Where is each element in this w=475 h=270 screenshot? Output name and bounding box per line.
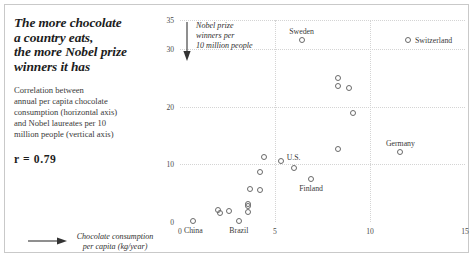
- data-point: [291, 165, 297, 171]
- data-point: [346, 85, 352, 91]
- page-title: The more chocolate a country eats, the m…: [14, 16, 164, 74]
- x-axis-label-line-1: Chocolate consumption: [57, 232, 173, 242]
- x-tick-label: 5: [273, 227, 277, 236]
- y-axis-label-line-1: Nobel prize: [196, 21, 253, 31]
- data-point: [245, 209, 251, 215]
- point-label: Sweden: [289, 27, 314, 36]
- x-tick-label: 0: [178, 227, 182, 236]
- x-axis-arrow-icon: [28, 236, 68, 246]
- y-tick-label: 30: [166, 44, 174, 53]
- data-point: [335, 83, 341, 89]
- data-point: [308, 176, 314, 182]
- correlation-value: r = 0.79: [14, 153, 164, 166]
- y-tick-label: 20: [166, 102, 174, 111]
- gridline-horizontal: [180, 164, 465, 165]
- data-point: [405, 37, 411, 43]
- point-label: Brazil: [229, 226, 248, 235]
- data-point: [190, 218, 196, 224]
- lead-panel: The more chocolate a country eats, the m…: [14, 16, 164, 166]
- y-tick-label: 0: [170, 218, 174, 227]
- deck-line-2: annual per capita chocolate: [14, 96, 164, 107]
- title-line-3: the more Nobel prize: [14, 45, 164, 60]
- y-axis-ticks: 010203035: [150, 20, 174, 222]
- data-point: [257, 169, 263, 175]
- y-axis-label-line-2: winners per: [196, 31, 253, 41]
- y-axis-label: Nobel prize winners per 10 million peopl…: [196, 21, 253, 50]
- x-tick-label: 10: [366, 227, 374, 236]
- data-point: [236, 218, 242, 224]
- title-line-2: a country eats,: [14, 31, 164, 46]
- data-point: [278, 158, 284, 164]
- data-point: [257, 187, 263, 193]
- deck-line-4: and Nobel laureates per 10: [14, 118, 164, 129]
- gridline-vertical: [275, 20, 276, 222]
- x-tick-label: 15: [461, 227, 469, 236]
- point-label: U.S.: [287, 153, 301, 162]
- title-line-1: The more chocolate: [14, 16, 164, 31]
- point-label: Switzerland: [415, 36, 452, 45]
- data-point: [397, 149, 403, 155]
- y-tick-label: 10: [166, 160, 174, 169]
- deck-line-3: consumption (horizontal axis): [14, 107, 164, 118]
- point-label: Germany: [386, 138, 415, 147]
- x-axis-label: Chocolate consumption per capita (kg/yea…: [57, 232, 173, 252]
- data-point: [261, 154, 267, 160]
- deck-line-1: Correlation between: [14, 85, 164, 96]
- y-axis-arrow-icon: [182, 22, 192, 62]
- point-label: Finland: [299, 183, 323, 192]
- y-tick-label: 35: [166, 16, 174, 25]
- point-label: China: [184, 225, 203, 234]
- chart-description: Correlation between annual per capita ch…: [14, 85, 164, 140]
- data-point: [226, 208, 232, 214]
- gridline-horizontal: [180, 107, 465, 108]
- chart-figure: The more chocolate a country eats, the m…: [0, 0, 475, 270]
- gridline-vertical: [370, 20, 371, 222]
- data-point: [217, 210, 223, 216]
- data-point: [335, 75, 341, 81]
- data-point: [247, 186, 253, 192]
- deck-line-5: million people (vertical axis): [14, 129, 164, 140]
- x-axis-ticks: 051015: [180, 227, 465, 239]
- data-point: [350, 110, 356, 116]
- data-point: [299, 37, 305, 43]
- data-point: [335, 146, 341, 152]
- title-line-4: winners it has: [14, 60, 164, 75]
- y-axis-label-line-3: 10 million people: [196, 41, 253, 51]
- x-axis-label-line-2: per capita (kg/year): [57, 242, 173, 252]
